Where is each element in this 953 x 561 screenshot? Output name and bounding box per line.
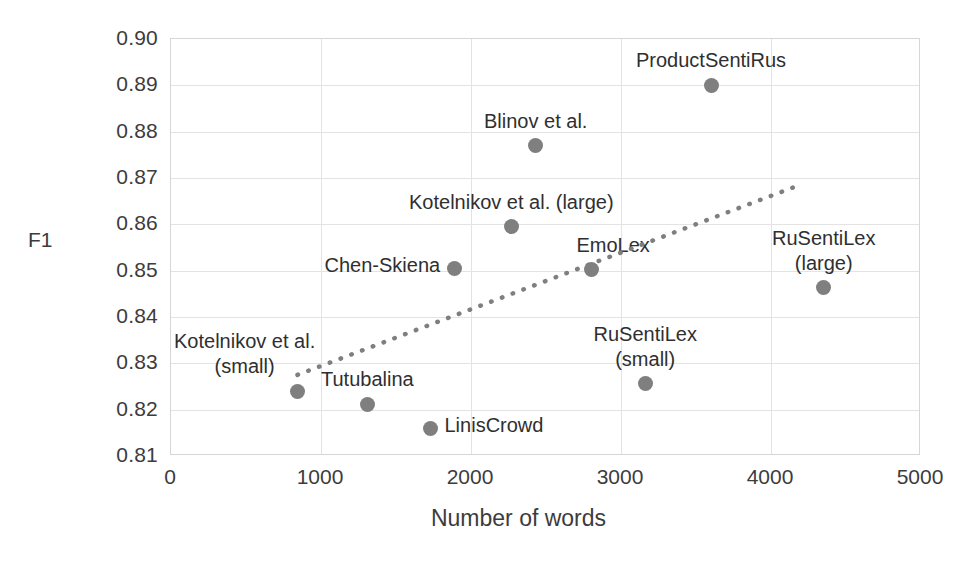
gridline-vertical bbox=[471, 39, 472, 454]
data-point bbox=[816, 280, 831, 295]
gridline-horizontal bbox=[171, 178, 919, 179]
scatter-chart: F1 0.900.890.880.870.860.850.840.830.820… bbox=[0, 0, 953, 561]
x-tick-label: 2000 bbox=[410, 466, 530, 488]
data-point-label: EmoLex bbox=[577, 233, 650, 258]
data-point bbox=[447, 261, 462, 276]
x-tick-label: 5000 bbox=[860, 466, 953, 488]
y-tick-label: 0.84 bbox=[96, 305, 158, 326]
gridline-horizontal bbox=[171, 317, 919, 318]
y-tick-label: 0.81 bbox=[96, 444, 158, 465]
y-tick-label: 0.88 bbox=[96, 120, 158, 141]
x-tick-label: 4000 bbox=[710, 466, 830, 488]
x-axis-title-text: Number of words bbox=[431, 505, 606, 531]
data-point bbox=[504, 219, 519, 234]
x-tick-label: 1000 bbox=[260, 466, 380, 488]
gridline-horizontal bbox=[171, 85, 919, 86]
data-point-label: ProductSentiRus bbox=[636, 48, 786, 73]
data-point bbox=[290, 384, 305, 399]
x-tick-label: 0 bbox=[110, 466, 230, 488]
y-tick-label: 0.85 bbox=[96, 259, 158, 280]
data-point-label: Chen-Skiena bbox=[325, 253, 441, 278]
data-point-label: Kotelnikov et al. (large) bbox=[409, 190, 614, 215]
y-tick-label: 0.87 bbox=[96, 166, 158, 187]
y-tick-label: 0.90 bbox=[96, 27, 158, 48]
x-tick-label: 3000 bbox=[560, 466, 680, 488]
plot-area: Kotelnikov et al. (small)TutubalinaLinis… bbox=[170, 38, 920, 455]
data-point-label: LinisCrowd bbox=[445, 413, 544, 438]
x-axis-title: Number of words bbox=[0, 505, 953, 532]
y-tick-label: 0.82 bbox=[96, 398, 158, 419]
data-point-label: Blinov et al. bbox=[484, 109, 587, 134]
y-tick-label: 0.83 bbox=[96, 351, 158, 372]
data-point-label: Kotelnikov et al. (small) bbox=[174, 329, 315, 379]
data-point bbox=[638, 376, 653, 391]
y-tick-label: 0.89 bbox=[96, 73, 158, 94]
y-tick-label: 0.86 bbox=[96, 212, 158, 233]
data-point-label: RuSentiLex (large) bbox=[772, 226, 875, 276]
data-point bbox=[423, 421, 438, 436]
gridline-horizontal bbox=[171, 410, 919, 411]
data-point bbox=[360, 397, 375, 412]
y-axis-title: F1 bbox=[28, 228, 53, 252]
data-point bbox=[704, 78, 719, 93]
data-point bbox=[584, 262, 599, 277]
data-point-label: RuSentiLex (small) bbox=[594, 322, 697, 372]
data-point bbox=[528, 138, 543, 153]
data-point-label: Tutubalina bbox=[321, 367, 414, 392]
